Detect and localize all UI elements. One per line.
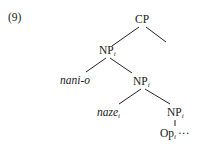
- node-naze: nazei: [97, 107, 120, 119]
- node-np3-label: NP: [167, 106, 182, 118]
- node-np2: NPi: [133, 76, 150, 88]
- node-np1: NPi: [99, 45, 116, 57]
- node-np1-index: i: [114, 50, 116, 58]
- edge-cp-np1: [112, 27, 139, 46]
- node-op-index: i: [174, 133, 176, 141]
- edge-np1-nani: [86, 58, 106, 72]
- edge-np1-np2: [110, 58, 132, 73]
- node-np1-label: NP: [99, 44, 114, 56]
- edge-cp-right: [146, 27, 166, 42]
- node-np2-label: NP: [133, 75, 148, 87]
- node-op-ellipsis: ···: [178, 127, 190, 139]
- node-nani-o: nani-o: [60, 75, 90, 87]
- node-naze-index: i: [118, 112, 120, 120]
- edge-np2-naze: [119, 89, 141, 104]
- node-naze-label: naze: [97, 106, 118, 118]
- node-np3-index: i: [182, 112, 184, 120]
- tree-edges: [0, 0, 198, 147]
- edge-np2-np3: [145, 89, 170, 104]
- node-op: Opi···: [160, 128, 190, 140]
- node-cp: CP: [135, 14, 149, 26]
- node-np3: NPi: [167, 107, 184, 119]
- node-np2-index: i: [148, 81, 150, 89]
- node-op-label: Op: [160, 127, 174, 139]
